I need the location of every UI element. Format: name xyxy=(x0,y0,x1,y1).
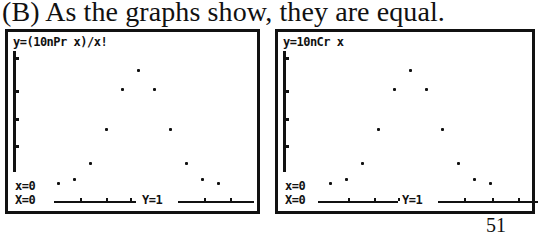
x-axis-segment xyxy=(438,201,538,203)
data-point xyxy=(441,128,444,131)
data-point xyxy=(329,182,332,185)
data-point xyxy=(57,182,60,185)
data-point xyxy=(153,88,156,91)
y-axis-tick xyxy=(286,57,289,60)
x-axis-tick xyxy=(492,198,494,201)
data-point xyxy=(217,182,220,185)
x-readout: X=0 xyxy=(15,193,35,207)
y-axis-tick xyxy=(16,118,19,121)
n-readout: x=0 xyxy=(15,179,35,193)
data-point xyxy=(121,88,124,91)
y-axis-tick xyxy=(16,145,19,148)
data-point xyxy=(457,162,460,165)
data-point xyxy=(169,128,172,131)
caption-text: (B) As the graphs show, they are equal. xyxy=(2,0,445,28)
data-point xyxy=(425,88,428,91)
calculator-screen-right: y=10nCr x x=0 X=0 Y=1 xyxy=(275,29,535,214)
y-axis-tick xyxy=(286,90,289,93)
x-axis-tick xyxy=(230,198,232,201)
x-axis-segment xyxy=(178,201,254,203)
equation-label: y=(10nPr x)/x! xyxy=(13,35,107,49)
data-point xyxy=(409,69,412,72)
x-axis-tick xyxy=(518,198,520,201)
x-axis-segment xyxy=(54,201,136,203)
calculator-screen-left: y=(10nPr x)/x! x=0 X=0 Y=1 xyxy=(5,29,260,214)
data-point xyxy=(137,69,140,72)
x-axis-segment xyxy=(318,201,398,203)
y-axis-tick xyxy=(286,118,289,121)
x-axis-tick xyxy=(374,198,376,201)
y-axis xyxy=(13,51,16,172)
data-point xyxy=(361,162,364,165)
page-number: 51 xyxy=(486,214,506,237)
data-point xyxy=(89,162,92,165)
data-point xyxy=(377,128,380,131)
x-axis-tick xyxy=(106,198,108,201)
data-point xyxy=(393,88,396,91)
data-point xyxy=(73,178,76,181)
data-point xyxy=(473,178,476,181)
n-readout: x=0 xyxy=(285,179,305,193)
data-point xyxy=(489,182,492,185)
y-axis-tick xyxy=(16,90,19,93)
x-axis-tick xyxy=(398,198,400,201)
y-readout: Y=1 xyxy=(402,193,422,207)
y-axis xyxy=(283,51,286,172)
data-point xyxy=(201,178,204,181)
x-axis-tick xyxy=(464,198,466,201)
x-axis-tick xyxy=(348,198,350,201)
x-axis-tick xyxy=(80,198,82,201)
data-point xyxy=(105,128,108,131)
x-axis-tick xyxy=(130,198,132,201)
x-readout: X=0 xyxy=(285,193,305,207)
data-point xyxy=(185,162,188,165)
y-axis-tick xyxy=(286,145,289,148)
data-point xyxy=(345,178,348,181)
y-readout: Y=1 xyxy=(142,193,162,207)
x-axis-tick xyxy=(204,198,206,201)
y-axis-tick xyxy=(16,57,19,60)
equation-label: y=10nCr x xyxy=(283,35,344,49)
